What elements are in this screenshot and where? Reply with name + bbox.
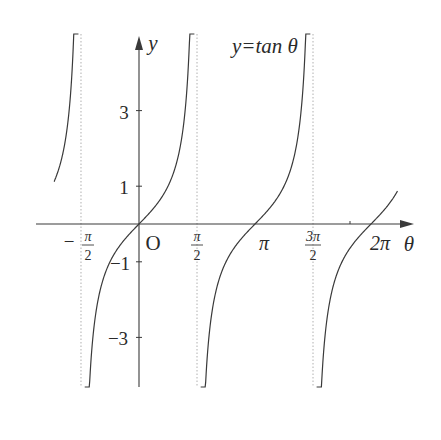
y-axis-label: y (146, 31, 158, 55)
x-axis-arrow-icon (400, 220, 414, 228)
tangent-branch (85, 34, 195, 387)
tick-denominator: 2 (84, 248, 91, 263)
y-tick-label: −1 (110, 253, 130, 274)
y-tick-label: −3 (108, 328, 128, 349)
tick-denominator: 2 (194, 248, 201, 263)
y-tick-label: 3 (119, 102, 129, 123)
tangent-curves (54, 34, 397, 387)
tangent-branch (201, 34, 311, 387)
tick-numerator: 3π (305, 229, 321, 244)
minus-sign: − (64, 231, 75, 252)
x-axis-label: θ (404, 232, 414, 256)
x-tick-label: 2π (370, 232, 391, 254)
tangent-chart: yθO31−1−3−π2π2π3π22π y=tan θ (0, 0, 441, 440)
tick-denominator: 2 (310, 248, 317, 263)
origin-label: O (145, 231, 160, 255)
tick-numerator: π (193, 229, 201, 244)
y-tick-label: 1 (119, 177, 129, 198)
tangent-branch (317, 191, 398, 387)
tangent-branch (54, 34, 78, 182)
chart-title: y=tan θ (230, 34, 298, 58)
tick-numerator: π (84, 229, 92, 244)
axis-labels: yθO31−1−3−π2π2π3π22π (64, 31, 415, 349)
x-tick-label: π (259, 232, 270, 254)
y-axis-arrow-icon (135, 36, 143, 50)
